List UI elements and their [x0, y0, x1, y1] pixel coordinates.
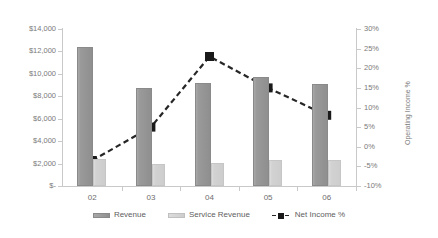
- right-tick-label: 30%: [364, 25, 379, 33]
- right-tick: [357, 49, 361, 50]
- right-tick-label: 5%: [364, 123, 375, 131]
- legend-square-marker-icon: [278, 213, 284, 219]
- net-income-marker: [205, 52, 214, 61]
- category-label: 02: [72, 194, 112, 202]
- left-tick: [58, 51, 62, 52]
- right-tick-label: 20%: [364, 64, 379, 72]
- right-tick: [357, 108, 361, 109]
- legend-label: Revenue: [114, 211, 146, 219]
- right-tick: [357, 68, 361, 69]
- right-tick-label: -10%: [364, 182, 382, 190]
- operating-income-chart: $millions Operating Income % $-$2,000$4,…: [0, 0, 438, 238]
- legend-item[interactable]: Net Income %: [272, 211, 345, 219]
- left-tick: [58, 186, 62, 187]
- left-tick-label: $10,000: [29, 70, 56, 78]
- right-tick-label: -5%: [364, 162, 377, 170]
- category-axis-line: [62, 186, 357, 187]
- bar-service-revenue: [328, 160, 341, 186]
- bar-revenue: [195, 83, 211, 186]
- left-tick: [58, 29, 62, 30]
- bar-service-revenue: [269, 160, 282, 186]
- left-tick: [58, 74, 62, 75]
- bar-revenue: [253, 77, 269, 186]
- legend-item[interactable]: Service Revenue: [168, 211, 250, 219]
- left-tick-label: $12,000: [29, 47, 56, 55]
- legend-swatch-net-income: [272, 212, 291, 219]
- left-tick: [58, 164, 62, 165]
- plot-area: [63, 29, 356, 186]
- legend-swatch-revenue: [93, 213, 110, 218]
- bar-revenue: [312, 84, 328, 186]
- legend-label: Service Revenue: [189, 211, 250, 219]
- right-tick: [357, 127, 361, 128]
- right-tick-label: 10%: [364, 104, 379, 112]
- right-tick: [357, 186, 361, 187]
- right-tick: [357, 29, 361, 30]
- right-tick-label: 25%: [364, 45, 379, 53]
- category-tick: [356, 187, 357, 191]
- right-tick: [357, 88, 361, 89]
- legend-swatch-service-revenue: [168, 213, 185, 218]
- left-tick-label: $8,000: [33, 92, 56, 100]
- right-tick-label: 0%: [364, 143, 375, 151]
- left-tick: [58, 96, 62, 97]
- left-tick-label: $2,000: [33, 160, 56, 168]
- bar-revenue: [77, 47, 93, 186]
- left-tick-label: $-: [49, 182, 56, 190]
- left-tick-label: $14,000: [29, 25, 56, 33]
- right-tick: [357, 166, 361, 167]
- category-tick: [180, 187, 181, 191]
- bar-revenue: [136, 88, 152, 186]
- legend-item[interactable]: Revenue: [93, 211, 146, 219]
- bar-service-revenue: [152, 164, 165, 186]
- left-tick-label: $6,000: [33, 115, 56, 123]
- bar-service-revenue: [93, 159, 106, 186]
- left-tick: [58, 141, 62, 142]
- category-tick: [122, 187, 123, 191]
- category-label: 03: [131, 194, 171, 202]
- category-label: 06: [307, 194, 347, 202]
- left-tick: [58, 119, 62, 120]
- left-tick-label: $4,000: [33, 137, 56, 145]
- category-tick: [239, 187, 240, 191]
- y2-axis-title: Operating Income %: [404, 81, 411, 145]
- right-tick: [357, 147, 361, 148]
- category-label: 05: [248, 194, 288, 202]
- right-tick-label: 15%: [364, 84, 379, 92]
- chart-legend: RevenueService RevenueNet Income %: [0, 211, 438, 219]
- bar-service-revenue: [211, 163, 224, 186]
- category-label: 04: [190, 194, 230, 202]
- category-tick: [297, 187, 298, 191]
- legend-label: Net Income %: [295, 211, 345, 219]
